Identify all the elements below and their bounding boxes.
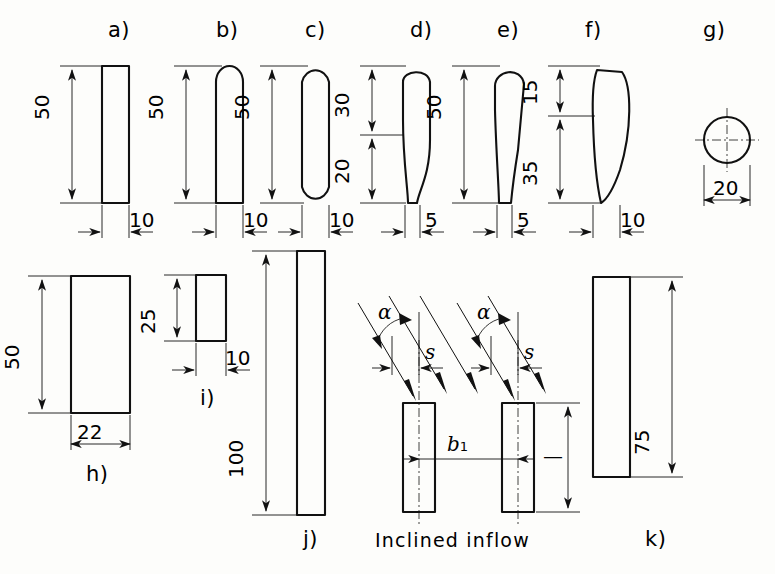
figure-canvas: a) b) c) d) e) f) g) h) i) j) k) 50 50 5…: [0, 0, 775, 574]
alpha-label-left: α: [378, 300, 392, 324]
shape-d-profile: [403, 72, 430, 203]
dim-a-width: 10: [129, 208, 154, 232]
dim-f-width: 10: [620, 208, 645, 232]
shape-i-profile: [196, 275, 226, 341]
part-label-e: e): [497, 18, 519, 42]
dim-c-height: 50: [230, 95, 254, 120]
b1-subscript: 1: [460, 439, 468, 454]
dim-f-lower: 35: [518, 161, 542, 186]
dim-e-width: 5: [517, 208, 530, 232]
alpha-label-right: α: [477, 300, 491, 324]
part-label-c: c): [305, 18, 326, 42]
dim-f-upper: 15: [518, 80, 542, 105]
dim-k-height: 75: [630, 430, 654, 455]
part-label-b: b): [216, 18, 239, 42]
shape-g-profile: [704, 117, 750, 163]
dim-h-width: 22: [77, 420, 102, 444]
part-label-j: j): [303, 527, 318, 551]
shape-k-profile: [593, 277, 630, 477]
part-label-i: i): [200, 386, 215, 410]
shape-a-profile: [102, 66, 129, 203]
part-label-k: k): [645, 527, 666, 551]
s-label-left: s: [425, 340, 435, 364]
dim-d-width: 5: [425, 208, 438, 232]
s-label-right: s: [524, 340, 534, 364]
shape-b-profile: [216, 66, 243, 203]
pitch-dash-label: —: [543, 444, 563, 468]
dim-d-lower: 20: [330, 159, 354, 184]
b1-base: b: [447, 432, 460, 456]
shape-h-profile: [71, 276, 130, 413]
part-label-a: a): [108, 18, 130, 42]
shape-c-profile: [302, 70, 329, 199]
inflow-arrowheads: [404, 372, 546, 401]
dim-g-diameter: 20: [713, 176, 738, 200]
dim-j-height: 100: [224, 440, 248, 478]
dim-c-width: 10: [329, 208, 354, 232]
b1-label: b1: [447, 432, 468, 456]
part-label-g: g): [703, 18, 726, 42]
shape-j-group: [252, 251, 325, 515]
dim-i-width: 10: [225, 346, 250, 370]
shape-j-profile: [297, 251, 325, 515]
dim-i-height: 25: [136, 309, 160, 334]
dim-e-height: 50: [422, 95, 446, 120]
dim-b-width: 10: [243, 208, 268, 232]
dim-h-height: 50: [0, 345, 24, 370]
dim-b-height: 50: [144, 95, 168, 120]
dim-d-upper: 30: [330, 93, 354, 118]
shape-f-profile: [593, 70, 630, 203]
part-label-d: d): [410, 18, 433, 42]
dim-a-height: 50: [30, 95, 54, 120]
part-label-f: f): [585, 18, 602, 42]
inclined-inflow-group: [358, 296, 580, 524]
technical-drawing: [0, 0, 775, 574]
part-label-h: h): [86, 462, 109, 486]
figure-caption: Inclined inflow: [375, 529, 530, 551]
